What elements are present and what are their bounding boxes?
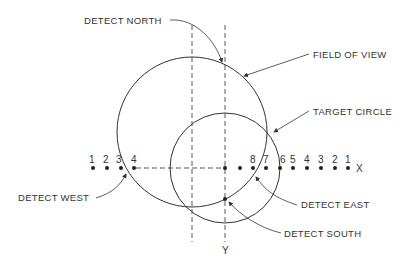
- left-point-2: [105, 166, 109, 170]
- detect-south-label: DETECT SOUTH: [284, 228, 361, 239]
- right-point-8: [251, 166, 255, 170]
- detect-north-leader-arrow: [170, 20, 222, 62]
- left-point-label-4: 4: [131, 154, 137, 165]
- right-point-5: [291, 166, 295, 170]
- detect-west-label: DETECT WEST: [18, 192, 89, 203]
- origin-point: [223, 166, 227, 170]
- field-of-view-leader-arrow: [244, 54, 309, 76]
- detect-south-leader-arrow: [229, 202, 281, 233]
- left-point-4: [132, 166, 136, 170]
- right-point-6: [278, 166, 282, 170]
- left-point-label-1: 1: [89, 154, 95, 165]
- y-axis-label: Y: [222, 245, 229, 256]
- x-axis-label: X: [356, 163, 363, 174]
- right-point-label-6: 6: [280, 154, 286, 165]
- detection-diagram: 1 2 3 4 8 7 6 5 4 3 2 1 X Y DETECT NORTH…: [0, 0, 413, 264]
- right-point-4: [305, 166, 309, 170]
- left-point-label-3: 3: [116, 154, 122, 165]
- right-point-label-5: 5: [290, 154, 296, 165]
- detect-west-leader-arrow: [96, 174, 126, 198]
- target-circle-leader-arrow: [274, 111, 309, 132]
- right-point-1: [346, 166, 350, 170]
- right-point-2: [333, 166, 337, 170]
- right-point-extra: [238, 166, 242, 170]
- left-point-label-2: 2: [103, 154, 109, 165]
- right-point-label-3: 3: [318, 154, 324, 165]
- detect-north-label: DETECT NORTH: [84, 15, 162, 26]
- left-point-3: [119, 166, 123, 170]
- right-point-label-4: 4: [304, 154, 310, 165]
- right-point-3: [319, 166, 323, 170]
- detect-east-leader-arrow: [256, 177, 297, 205]
- detect-east-label: DETECT EAST: [301, 199, 370, 210]
- left-point-1: [91, 166, 95, 170]
- target-circle-label: TARGET CIRCLE: [313, 106, 392, 117]
- field-of-view-label: FIELD OF VIEW: [313, 49, 387, 60]
- right-point-label-7: 7: [263, 154, 269, 165]
- right-point-label-2: 2: [332, 154, 338, 165]
- right-point-label-8: 8: [250, 154, 256, 165]
- right-point-7: [264, 166, 268, 170]
- detect-south-point: [223, 197, 227, 201]
- right-point-label-1: 1: [345, 154, 351, 165]
